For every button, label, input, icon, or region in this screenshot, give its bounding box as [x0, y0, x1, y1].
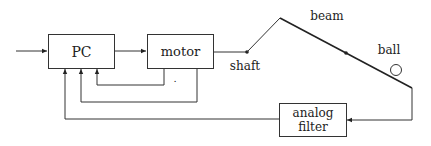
motor-label: motor	[161, 44, 201, 59]
analog-filter-block: analog filter	[280, 104, 347, 137]
motor-block: motor	[148, 35, 214, 69]
beam-center-dot	[344, 51, 348, 55]
ball	[391, 65, 402, 76]
beam-label: beam	[310, 9, 344, 23]
filter-label-line2: filter	[298, 120, 328, 134]
shaft-label: shaft	[230, 59, 260, 73]
lever-arm	[247, 18, 280, 52]
pc-label: PC	[71, 44, 91, 60]
motor-feedback-1	[97, 69, 164, 85]
dot-mark: .	[173, 73, 176, 84]
beam-ball-diagram: PC motor shaft beam ball analog filter .	[0, 0, 431, 146]
filter-label-line1: analog	[293, 106, 334, 120]
ball-label: ball	[378, 43, 401, 57]
pc-block: PC	[49, 35, 115, 69]
beam-to-filter-line	[347, 88, 412, 120]
